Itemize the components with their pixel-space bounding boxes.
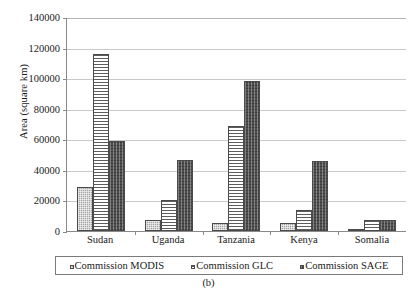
bar-groups xyxy=(67,18,406,231)
swatch-sage-icon xyxy=(300,265,304,269)
x-tick-label-kenya: Kenya xyxy=(270,234,338,245)
bar xyxy=(77,187,93,231)
bar xyxy=(212,223,228,231)
bar-group-somalia xyxy=(338,18,406,231)
x-tick-label-somalia: Somalia xyxy=(338,234,406,245)
bar xyxy=(93,54,109,231)
bar xyxy=(244,81,260,231)
y-tick-label: 60000 xyxy=(0,135,60,146)
bar xyxy=(280,223,296,231)
plot-area xyxy=(66,18,406,232)
bar xyxy=(145,220,161,231)
x-tick-label-uganda: Uganda xyxy=(134,234,202,245)
bar xyxy=(348,229,364,231)
x-tick-label-tanzania: Tanzania xyxy=(202,234,270,245)
bar xyxy=(109,141,125,231)
x-axis-tick-labels: SudanUgandaTanzaniaKenyaSomalia xyxy=(66,234,406,245)
figure-caption: (b) xyxy=(0,277,417,288)
bar-group-kenya xyxy=(270,18,338,231)
y-tick-label: 80000 xyxy=(0,105,60,116)
bar xyxy=(296,210,312,231)
y-tick-label: 120000 xyxy=(0,44,60,55)
swatch-glc-icon xyxy=(191,265,195,269)
y-tick-label: 100000 xyxy=(0,74,60,85)
y-tick-mark xyxy=(63,232,67,233)
legend-item: Commission GLC xyxy=(191,260,273,271)
x-tick-label-sudan: Sudan xyxy=(66,234,134,245)
bar xyxy=(161,200,177,231)
bar xyxy=(228,126,244,231)
legend-label: Commission MODIS xyxy=(75,260,165,271)
legend-label: Commission SAGE xyxy=(305,260,388,271)
y-tick-label: 0 xyxy=(0,227,60,238)
bar-group-tanzania xyxy=(203,18,271,231)
y-tick-label: 40000 xyxy=(0,166,60,177)
swatch-modis-icon xyxy=(70,265,74,269)
legend-item: Commission SAGE xyxy=(300,260,388,271)
bar xyxy=(312,161,328,231)
legend-label: Commission GLC xyxy=(196,260,273,271)
legend-item: Commission MODIS xyxy=(70,260,165,271)
y-tick-label: 20000 xyxy=(0,196,60,207)
bar xyxy=(177,160,193,231)
y-tick-label: 140000 xyxy=(0,13,60,24)
bar xyxy=(364,220,380,231)
bar-group-sudan xyxy=(67,18,135,231)
bar-chart-figure: Area (square km) 02000040000600008000010… xyxy=(0,0,417,294)
bar xyxy=(380,220,396,231)
bar-group-uganda xyxy=(135,18,203,231)
chart-legend: Commission MODISCommission GLCCommission… xyxy=(55,256,403,275)
